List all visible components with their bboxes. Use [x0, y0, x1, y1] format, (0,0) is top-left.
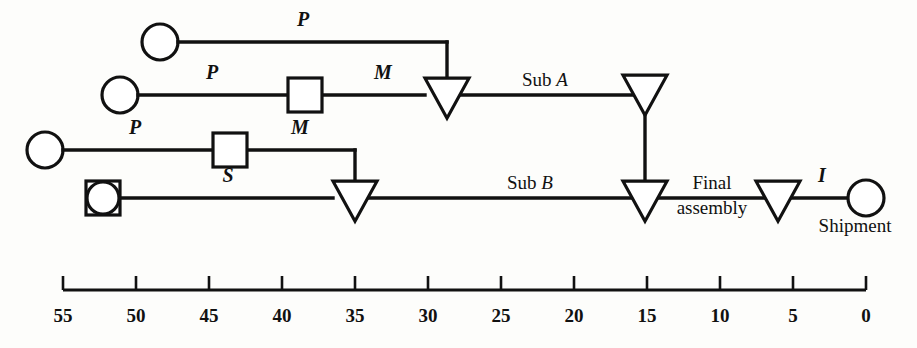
row-4-label-i: I	[817, 164, 827, 186]
row-4-label-shipment: Shipment	[819, 215, 893, 236]
axis-tick-label-30: 30	[419, 305, 438, 326]
row-1-start-circle	[142, 24, 178, 60]
row-2-start-circle	[102, 77, 138, 113]
row-4-shipment-circle	[848, 180, 884, 216]
row-4-junction-triangle	[623, 181, 667, 221]
axis-tick-label-5: 5	[788, 305, 798, 326]
row-3-square	[213, 133, 247, 167]
axis-tick-label-10: 10	[711, 305, 730, 326]
row-3-label-p-0: P	[128, 116, 142, 138]
axis-tick-label-50: 50	[127, 305, 146, 326]
lead-time-diagram: PPMSub APMSSub BFinalassemblyIShipment55…	[0, 0, 917, 348]
axis-tick-label-55: 55	[54, 305, 73, 326]
axis-tick-label-25: 25	[492, 305, 511, 326]
row-4-label-sub-b: Sub B	[507, 172, 553, 193]
axis-tick-label-40: 40	[273, 305, 292, 326]
axis-tick-label-15: 15	[638, 305, 657, 326]
row-2-label-sub-a: Sub A	[522, 69, 568, 90]
row-4-label-final: Final	[692, 172, 731, 193]
row-3-start-circle	[27, 132, 63, 168]
row-4-triangle-s	[333, 181, 377, 221]
row-2-label-p-0: P	[205, 61, 219, 83]
axis-tick-label-35: 35	[346, 305, 365, 326]
row-4-inspect-triangle	[756, 181, 800, 221]
row-2-label-m-1: M	[373, 61, 393, 83]
axis-tick-label-0: 0	[861, 305, 871, 326]
axis-tick-label-20: 20	[565, 305, 584, 326]
row-4-start-inner-circle	[87, 182, 119, 214]
row-2-triangle	[425, 78, 469, 118]
row-4-label-s-0: S	[222, 164, 233, 186]
diagram-canvas: PPMSub APMSSub BFinalassemblyIShipment55…	[0, 0, 917, 348]
row-3-label-m-1: M	[290, 116, 310, 138]
axis-tick-label-45: 45	[200, 305, 219, 326]
row-4-label-assembly: assembly	[677, 197, 748, 218]
row-2-square	[288, 78, 322, 112]
row-1-label-p-0: P	[296, 8, 310, 30]
